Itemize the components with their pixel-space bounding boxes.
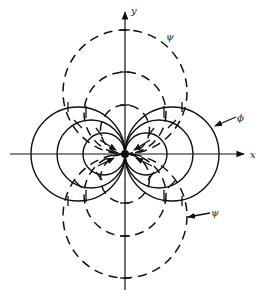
label-psi-top: ψ <box>166 31 174 42</box>
y-axis-label: y <box>130 5 137 16</box>
label-psi-bottom: ψ <box>211 207 219 218</box>
phi-pointer <box>215 117 236 126</box>
x-axis-label: x <box>250 149 256 160</box>
dipole-flow-diagram: x y <box>0 0 264 296</box>
label-phi-right: ϕ <box>237 112 244 123</box>
psi-bottom-pointer <box>188 213 210 217</box>
origin-point <box>121 150 129 158</box>
